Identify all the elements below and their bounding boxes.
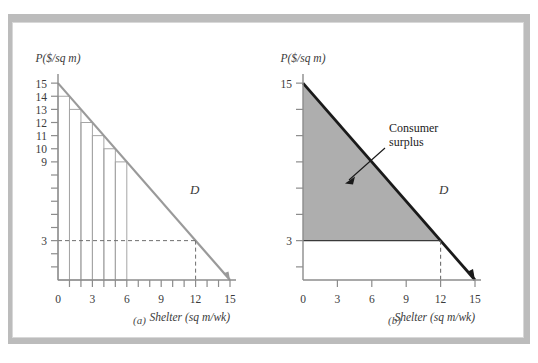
consumer-surplus-label-line1: Consumer [389,121,438,135]
panel-b-caption: (b) [267,314,522,326]
y-tick-label-10: 10 [36,143,48,155]
y-axis-title-b: P($/sq m) [279,52,325,65]
y-axis-ticks-b [296,83,303,267]
x-tick-label-6: 6 [124,293,130,305]
panel-b: 15 3 0 3 6 9 12 15 P($/sq m) Shelter (sq… [267,22,522,336]
x-tick-label-3: 3 [90,293,96,305]
x-tick-label-b-3: 3 [335,293,341,305]
x-tick-label-12: 12 [190,293,202,305]
panel-a: 15 14 13 12 11 10 9 3 0 3 6 9 12 15 P($/… [12,22,267,336]
y-axis-ticks-a [51,83,58,267]
y-tick-label-3: 3 [41,235,47,247]
consumer-surplus-label-line2: surplus [389,135,424,149]
y-axis-title: P($/sq m) [34,52,80,65]
y-tick-label-9: 9 [41,156,47,168]
x-tick-label-9: 9 [158,293,164,305]
demand-curve-label-b: D [438,182,449,197]
x-tick-label-b-15: 15 [469,293,481,305]
x-tick-label-b-0: 0 [300,293,306,305]
x-axis-ticks-a [69,280,230,287]
x-tick-label-b-9: 9 [403,293,409,305]
panel-a-plot: 15 14 13 12 11 10 9 3 0 3 6 9 12 15 P($/… [12,22,267,336]
y-tick-label-11: 11 [36,130,47,142]
panels-container: 15 14 13 12 11 10 9 3 0 3 6 9 12 15 P($/… [12,22,522,336]
x-tick-label-15: 15 [224,293,236,305]
panel-a-caption: (a) [12,314,267,326]
y-tick-label-12: 12 [36,117,48,129]
y-tick-label-b-3: 3 [286,235,292,247]
demand-curve-a [58,83,230,280]
y-tick-label-13: 13 [36,104,48,116]
x-tick-label-0: 0 [55,293,61,305]
x-axis-ticks-b [337,280,475,287]
y-tick-label-15: 15 [36,78,48,90]
x-tick-label-b-12: 12 [435,293,447,305]
demand-curve-label-a: D [189,182,200,197]
panel-b-plot: 15 3 0 3 6 9 12 15 P($/sq m) Shelter (sq… [267,22,522,336]
figure-root: 15 14 13 12 11 10 9 3 0 3 6 9 12 15 P($/… [0,0,538,363]
y-tick-label-14: 14 [36,91,48,103]
x-tick-label-b-6: 6 [369,293,375,305]
y-tick-label-b-15: 15 [281,78,293,90]
